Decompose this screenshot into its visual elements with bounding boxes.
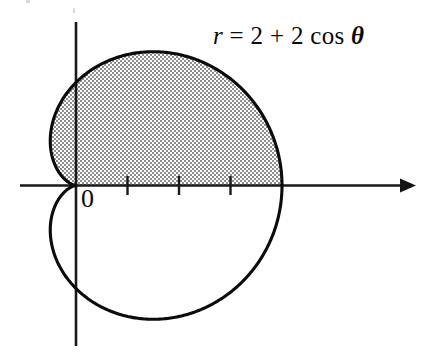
equation-const: 2: [251, 22, 264, 49]
equation-plus: +: [270, 22, 284, 49]
equation-theta: θ: [351, 22, 364, 49]
scan-artifact-speck: [73, 8, 75, 13]
equation-lhs: r: [213, 22, 223, 49]
x-axis-arrowhead: [400, 179, 416, 193]
polar-plot-figure: r = 2 + 2 cos θ 0: [0, 0, 430, 360]
cardioid-plot-canvas: [0, 0, 430, 360]
origin-label: 0: [81, 186, 94, 212]
equation-label: r = 2 + 2 cos θ: [213, 22, 364, 50]
equation-equals: =: [230, 22, 244, 49]
equation-coef: 2: [291, 22, 304, 49]
equation-function: cos: [310, 22, 344, 49]
scan-artifact-speck: [26, 0, 30, 3]
